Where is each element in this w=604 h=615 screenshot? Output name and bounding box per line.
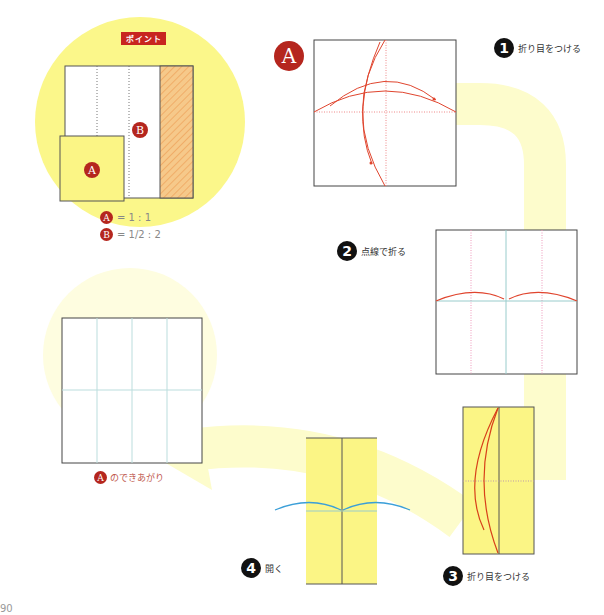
step-4-label: 4 開く: [241, 558, 283, 578]
step-1-label: 1 折り目をつける: [494, 38, 581, 58]
ratio-b: B = 1/2 : 2: [100, 228, 161, 241]
point-banner: ポイント: [121, 32, 166, 45]
stripe-b: [160, 66, 193, 198]
title-badge-a: A: [274, 41, 304, 71]
page-number: 90: [0, 603, 13, 614]
badge-a: A: [84, 162, 100, 178]
result-label: A のできあがり: [94, 471, 164, 484]
diagram-canvas: [0, 0, 604, 615]
step-3-label: 3 折り目をつける: [443, 566, 530, 586]
step-2-label: 2 点線で折る: [337, 241, 406, 261]
ratio-a: A = 1 : 1: [100, 211, 151, 224]
badge-b: B: [132, 122, 148, 138]
